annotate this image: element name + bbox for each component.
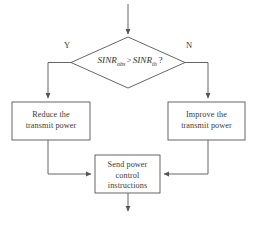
yes-arrow bbox=[48, 63, 71, 99]
send-instructions-box bbox=[95, 155, 160, 193]
reduce-power-box bbox=[12, 102, 90, 140]
flowchart-canvas bbox=[0, 0, 255, 226]
decision-condition-label: SINRobs>SINRth? bbox=[75, 55, 185, 69]
flowchart-diagram: SINRobs>SINRth? Y N Reduce the transmit … bbox=[0, 0, 255, 226]
decision-operator: > bbox=[126, 55, 133, 65]
improve-to-send-arrow bbox=[164, 140, 208, 174]
decision-lhs-symbol: SINR bbox=[97, 55, 116, 65]
decision-question-mark: ? bbox=[157, 55, 163, 65]
improve-power-box bbox=[168, 102, 245, 140]
reduce-to-send-arrow bbox=[48, 140, 91, 174]
branch-label-yes: Y bbox=[64, 41, 70, 50]
decision-rhs-symbol: SINR bbox=[133, 55, 152, 65]
no-arrow bbox=[185, 63, 208, 99]
branch-label-no: N bbox=[186, 41, 192, 50]
decision-lhs-subscript: obs bbox=[117, 60, 126, 67]
